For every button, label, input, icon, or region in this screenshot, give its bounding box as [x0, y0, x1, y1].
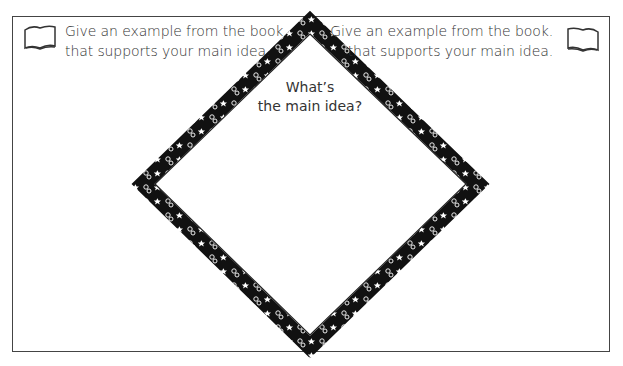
main-idea-line1: What’s [250, 78, 370, 97]
main-idea-line2: the main idea? [250, 97, 370, 116]
right-prompt-line2: that supports your main idea. [330, 41, 553, 61]
main-idea-question: What’s the main idea? [250, 78, 370, 116]
left-prompt: Give an example from the book. that supp… [65, 21, 288, 61]
book-icon [22, 22, 58, 52]
left-prompt-line2: that supports your main idea. [65, 41, 288, 61]
right-prompt-line1: Give an example from the book. [330, 21, 553, 41]
book-icon [565, 24, 601, 54]
right-prompt: Give an example from the book. that supp… [330, 21, 553, 61]
left-prompt-line1: Give an example from the book. [65, 21, 288, 41]
